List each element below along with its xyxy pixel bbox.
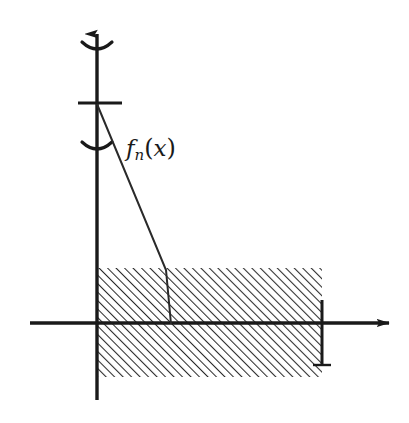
function-label-subscript: n [135,146,145,164]
function-label-paren-open: ( [144,134,153,162]
diagram-svg [0,0,409,423]
function-label-paren-close: ) [167,134,176,162]
function-label-f: f [126,135,135,161]
figure-canvas: fn(x) [0,0,409,423]
function-label: fn(x) [126,136,176,163]
function-label-argument: x [154,135,167,161]
